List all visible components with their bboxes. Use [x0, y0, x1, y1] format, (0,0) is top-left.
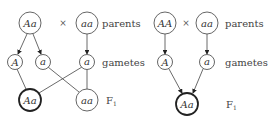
parent-label: aa — [201, 18, 213, 29]
gamete-label: a — [204, 56, 210, 67]
edge-Aa-to-a — [33, 34, 41, 54]
parent-label: AA — [157, 18, 172, 29]
gamete-label: A — [10, 57, 18, 68]
row-label-f1: F1 — [226, 99, 237, 111]
genetic-cross-figure: Aa × aa parents A a a gametes Aa aa F1 A… — [0, 0, 271, 126]
edge-a-to-Aa — [193, 69, 203, 93]
edge-a-to-aa — [48, 67, 79, 92]
edge-A-to-Aa — [17, 69, 26, 89]
offspring-label: Aa — [179, 99, 193, 110]
cross-symbol: × — [59, 18, 67, 28]
gamete-label: A — [160, 57, 168, 68]
gamete-label: a — [84, 56, 90, 67]
parent-label: Aa — [22, 18, 36, 29]
row-label-gametes: gametes — [102, 57, 145, 68]
row-label-parents: parents — [225, 18, 264, 29]
offspring-label: Aa — [22, 95, 36, 106]
edge-A-to-Aa — [169, 69, 182, 93]
right-cross-diagram: AA × aa parents A a gametes Aa F1 — [154, 12, 268, 115]
edge-Aa-to-A — [18, 34, 27, 54]
offspring-label: aa — [81, 95, 93, 106]
gamete-label: a — [40, 56, 46, 67]
row-label-f1: F1 — [106, 95, 117, 107]
left-cross-diagram: Aa × aa parents A a a gametes Aa aa F1 — [8, 12, 145, 111]
cross-symbol: × — [182, 18, 190, 28]
row-label-parents: parents — [102, 18, 141, 29]
parent-label: aa — [81, 18, 93, 29]
row-label-gametes: gametes — [225, 57, 268, 68]
